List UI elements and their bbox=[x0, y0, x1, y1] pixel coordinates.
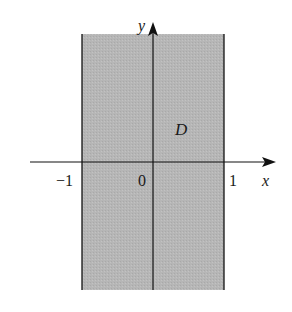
region-label: D bbox=[174, 120, 188, 139]
tick-label-one: 1 bbox=[229, 172, 237, 189]
tick-label-zero: 0 bbox=[138, 172, 146, 189]
tick-label-neg-one: −1 bbox=[56, 172, 73, 189]
x-axis-label: x bbox=[261, 172, 269, 189]
y-axis-label: y bbox=[136, 17, 146, 35]
region-diagram: y D −1 0 1 x bbox=[0, 0, 292, 312]
